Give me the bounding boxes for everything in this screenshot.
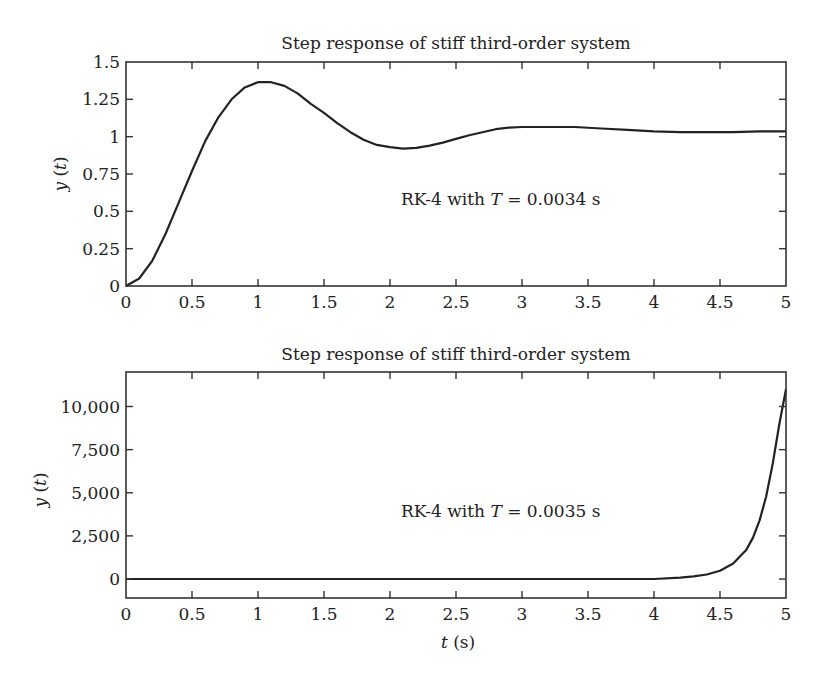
bottom-plot-frame xyxy=(126,372,786,598)
bottom-panel-title: Step response of stiff third-order syste… xyxy=(281,344,630,364)
x-tick-label: 3 xyxy=(517,292,528,312)
x-tick-label: 4.5 xyxy=(706,292,733,312)
bottom-annotation: RK-4 with T = 0.0035 s xyxy=(401,501,600,521)
y-tick-label: 1.25 xyxy=(82,89,120,109)
x-tick-label: 5 xyxy=(781,604,792,624)
x-tick-label: 3 xyxy=(517,604,528,624)
x-tick-label: 0.5 xyxy=(178,604,205,624)
top-plot-frame xyxy=(126,62,786,286)
figure: Step response of stiff third-order syste… xyxy=(0,0,824,679)
x-tick-label: 1 xyxy=(253,292,264,312)
top-x-tick-labels: 00.511.522.533.544.55 xyxy=(121,292,792,312)
bottom-x-axis-label: t (s) xyxy=(441,632,475,652)
x-tick-label: 3.5 xyxy=(574,604,601,624)
response-line xyxy=(126,82,786,286)
y-tick-label: 2,500 xyxy=(71,526,120,546)
bottom-panel: Step response of stiff third-order syste… xyxy=(30,344,791,652)
top-y-axis-label: y (t) xyxy=(50,156,70,192)
top-y-tick-labels: 00.250.50.7511.251.5 xyxy=(82,52,120,296)
y-tick-label: 10,000 xyxy=(61,397,120,417)
y-tick-label: 5,000 xyxy=(71,483,120,503)
bottom-y-axis-label: y (t) xyxy=(30,472,50,508)
response-line xyxy=(126,389,786,579)
y-tick-label: 1.5 xyxy=(93,52,120,72)
top-annotation: RK-4 with T = 0.0034 s xyxy=(401,189,600,209)
x-tick-label: 2.5 xyxy=(442,292,469,312)
y-tick-label: 7,500 xyxy=(71,440,120,460)
y-tick-label: 0 xyxy=(109,569,120,589)
x-tick-label: 5 xyxy=(781,292,792,312)
x-tick-label: 1.5 xyxy=(310,292,337,312)
x-tick-label: 2.5 xyxy=(442,604,469,624)
y-tick-label: 0.5 xyxy=(93,201,120,221)
x-tick-label: 0 xyxy=(121,292,132,312)
top-panel-title: Step response of stiff third-order syste… xyxy=(281,33,630,53)
x-tick-label: 3.5 xyxy=(574,292,601,312)
y-tick-label: 0.75 xyxy=(82,164,120,184)
x-tick-label: 2 xyxy=(385,604,396,624)
y-tick-label: 0 xyxy=(109,276,120,296)
bottom-y-tick-labels: 02,5005,0007,50010,000 xyxy=(61,397,120,590)
top-panel: Step response of stiff third-order syste… xyxy=(50,33,791,312)
x-tick-label: 2 xyxy=(385,292,396,312)
bottom-response-curve xyxy=(126,389,786,579)
x-tick-label: 4 xyxy=(649,604,660,624)
bottom-tick-marks xyxy=(126,372,786,598)
top-response-curve xyxy=(126,82,786,286)
x-tick-label: 4.5 xyxy=(706,604,733,624)
top-tick-marks xyxy=(126,62,786,286)
y-tick-label: 1 xyxy=(109,127,120,147)
x-tick-label: 1 xyxy=(253,604,264,624)
x-tick-label: 1.5 xyxy=(310,604,337,624)
y-tick-label: 0.25 xyxy=(82,239,120,259)
bottom-x-tick-labels: 00.511.522.533.544.55 xyxy=(121,604,792,624)
x-tick-label: 0.5 xyxy=(178,292,205,312)
x-tick-label: 4 xyxy=(649,292,660,312)
x-tick-label: 0 xyxy=(121,604,132,624)
